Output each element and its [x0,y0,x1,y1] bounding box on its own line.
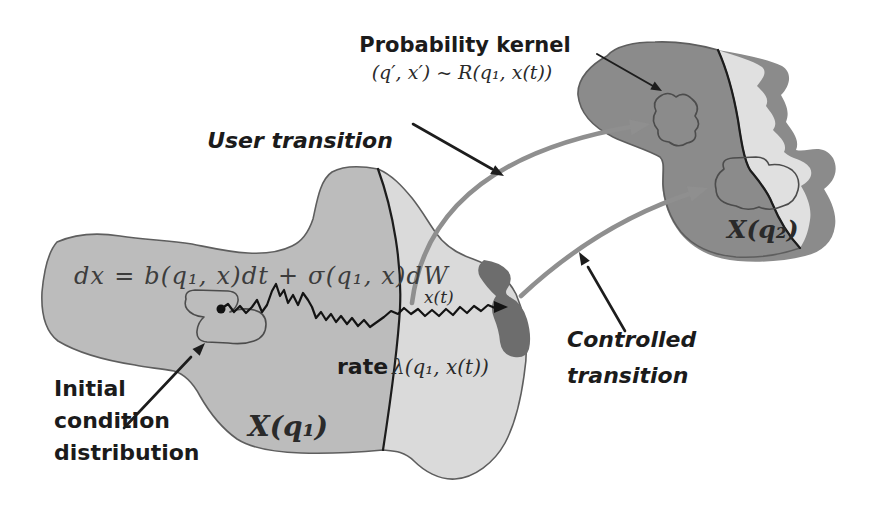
hybrid-system-diagram-canvas: Probability kernel (q′, x′) ~ R(q₁, x(t)… [0,0,879,514]
rate-formula: λ(q₁, x(t)) [391,355,489,379]
initial-condition-label-line2: condition [54,408,170,433]
user-transition-label: User transition [207,128,393,153]
user-transition-pointer-line [413,124,492,169]
probability-kernel-label: Probability kernel [359,33,570,57]
initial-condition-label-line3: distribution [54,440,200,465]
initial-condition-label-line1: Initial [54,376,126,401]
diagram-page: Probability kernel (q′, x′) ~ R(q₁, x(t)… [0,0,879,514]
controlled-transition-pointer-arrowhead-icon [579,252,590,266]
trajectory-label: x(t) [424,287,454,307]
controlled-transition-label-line1: Controlled [567,327,696,352]
controlled-transition-label-line2: transition [567,363,688,388]
left-region-label: X(q₁) [246,410,328,443]
controlled-transition-pointer-line [588,267,625,331]
controlled-transition-pointer-arrow [579,252,625,331]
right-region-label: X(q₂) [725,215,798,244]
probability-kernel-formula: (q′, x′) ~ R(q₁, x(t)) [372,61,553,83]
user-transition-pointer-arrow [413,124,504,176]
rate-word: rate [337,354,388,379]
sde-formula: dx = b(q₁, x)dt + σ(q₁, x)dW [74,262,450,290]
